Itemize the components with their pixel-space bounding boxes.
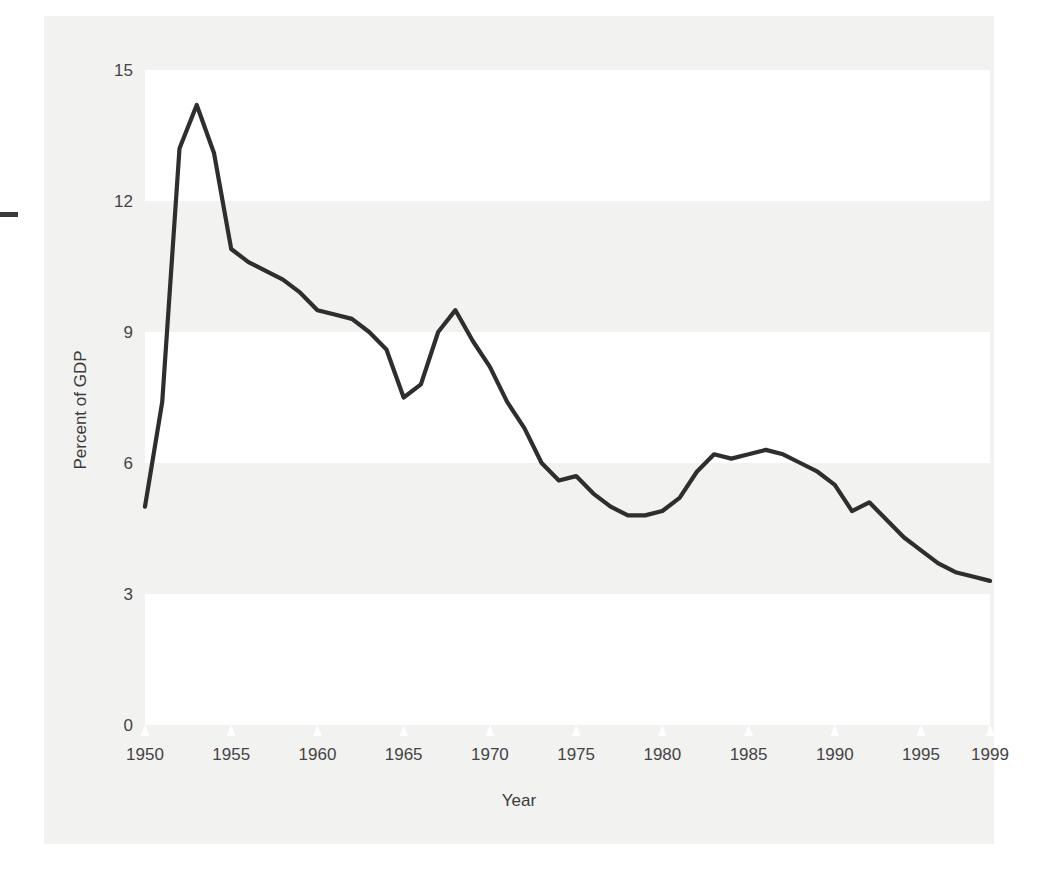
x-axis-title: Year [502, 791, 537, 810]
x-tick-label: 1985 [730, 745, 768, 764]
y-axis-title: Percent of GDP [71, 350, 90, 469]
x-tick-mark [485, 725, 494, 736]
chart-container: 03691215 1950195519601965197019751980198… [0, 0, 1038, 874]
x-axis-ticks [141, 725, 995, 736]
x-tick-label: 1970 [471, 745, 509, 764]
x-tick-mark [830, 725, 839, 736]
x-tick-label: 1955 [212, 745, 250, 764]
background-band [145, 70, 990, 201]
x-tick-label: 1999 [971, 745, 1009, 764]
figure-root: 03691215 1950195519601965197019751980198… [0, 0, 1038, 874]
x-tick-mark [141, 725, 150, 736]
line-chart: 03691215 1950195519601965197019751980198… [0, 0, 1038, 874]
x-tick-label: 1995 [902, 745, 940, 764]
x-tick-label: 1965 [385, 745, 423, 764]
x-tick-mark [399, 725, 408, 736]
x-tick-mark [917, 725, 926, 736]
y-tick-label: 3 [124, 585, 133, 604]
x-tick-mark [227, 725, 236, 736]
x-tick-label: 1980 [643, 745, 681, 764]
x-tick-mark [986, 725, 995, 736]
y-tick-label: 9 [124, 323, 133, 342]
x-tick-mark [658, 725, 667, 736]
background-band [145, 332, 990, 463]
x-tick-label: 1960 [299, 745, 337, 764]
background-band [145, 594, 990, 725]
y-tick-label: 12 [114, 192, 133, 211]
y-tick-label: 6 [124, 454, 133, 473]
x-tick-label: 1975 [557, 745, 595, 764]
y-tick-label: 0 [124, 716, 133, 735]
x-tick-label: 1950 [126, 745, 164, 764]
y-axis-tick-labels: 03691215 [114, 61, 133, 735]
y-tick-label: 15 [114, 61, 133, 80]
x-tick-mark [744, 725, 753, 736]
x-axis-tick-labels: 1950195519601965197019751980198519901995… [126, 745, 1009, 764]
x-tick-mark [313, 725, 322, 736]
x-tick-label: 1990 [816, 745, 854, 764]
background-bands [145, 70, 990, 725]
x-tick-mark [572, 725, 581, 736]
